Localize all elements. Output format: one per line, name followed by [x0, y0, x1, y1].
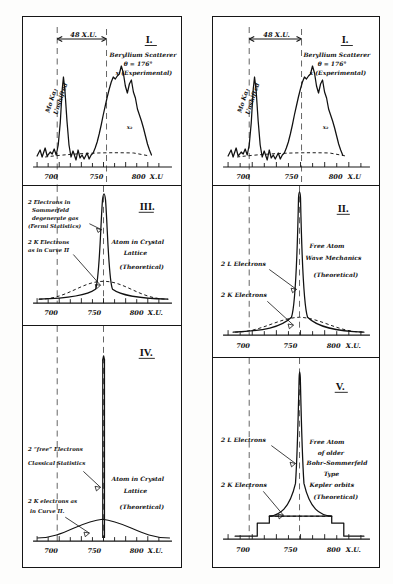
panel-title-line-2: θ = 176° [124, 60, 153, 67]
x-axis-ticks [37, 536, 159, 541]
modified-peak-label: x₂ [126, 124, 133, 130]
free-electrons-leader [83, 471, 100, 487]
x-tick-label-750: 750 [284, 173, 298, 181]
panel-V: V. 2 L Electrons Free Atom of older Bohr… [213, 357, 379, 565]
x-tick-label-700: 700 [236, 173, 250, 181]
k-electrons-label-2: as in Curve II [28, 247, 69, 253]
figure-column-right: 48 X.U. I. Beryllium Scatterer θ = 176° … [212, 16, 380, 568]
l-electrons-leader [269, 270, 296, 290]
valence-electrons-label-3: degenerate gas [32, 215, 78, 222]
l-electrons-label: 2 L Electrons [220, 436, 266, 443]
panel-title-line-3: Bohr–Sommerfeld [306, 460, 369, 468]
l-electrons-leader [271, 446, 295, 464]
panel-numeral: V. [336, 381, 345, 392]
x-tick-label-750: 750 [89, 173, 103, 181]
x-axis-unit: X.U. [345, 546, 361, 554]
k-electrons-leader [267, 301, 293, 325]
x-axis-ticks [37, 162, 159, 167]
panel-title-line-2: θ = 176° [318, 60, 347, 67]
panel-title-line-2: Wave Mechanics [306, 254, 362, 261]
panel-numeral: IV. [140, 347, 153, 358]
modified-peak-label: x₂ [322, 124, 329, 130]
x-tick-label-800: 800 [327, 342, 341, 350]
background-baseline [237, 153, 346, 157]
panel-numeral: II. [338, 203, 349, 214]
panel-title-line-3: x (Experimental) [309, 69, 367, 77]
panel-title-line-2: Lattice [123, 487, 148, 494]
panel-title-line-5: Kepler orbits [309, 481, 355, 489]
panel-title-line-6: (Theoretical) [314, 493, 359, 500]
x-tick-label-700: 700 [44, 309, 58, 317]
k-electrons-label-1: 2 K electrons as [27, 498, 77, 504]
valence-electrons-label-1: 2 Electrons in [27, 199, 70, 205]
panel-I-left: 48 X.U. I. Beryllium Scatterer θ = 176° … [23, 17, 181, 185]
x-axis-unit: X.U. [147, 547, 163, 555]
x-tick-label-750: 750 [87, 309, 101, 317]
panel-title-line-1: Free Atom [309, 242, 345, 249]
panel-numeral: III. [140, 201, 155, 212]
shift-span-label: 48 X.U. [70, 31, 96, 39]
x-tick-label-800: 800 [327, 546, 341, 554]
k-electrons-label-2: in Curve II. [30, 508, 65, 514]
figure-column-left: 48 X.U. I. Beryllium Scatterer θ = 176° … [22, 16, 182, 568]
l-electrons-label: 2 L Electrons [220, 260, 266, 267]
panel-numeral: I. [342, 34, 349, 45]
x-tick-label-750: 750 [87, 547, 101, 555]
x-tick-label-700: 700 [236, 342, 250, 350]
k-electrons-label: 2 K Electrons [220, 481, 267, 488]
x-tick-label-700: 700 [44, 547, 58, 555]
x-axis-unit: X.U [149, 173, 164, 181]
valence-electrons-label-4: (Fermi Statistics) [28, 223, 81, 229]
free-electrons-label-2: Classical Statistics [28, 460, 85, 466]
panel-III: III. Atom in Crystal Lattice (Theoretica… [23, 185, 181, 325]
background-baseline [45, 153, 150, 157]
shift-span-label: 48 X.U. [263, 31, 289, 39]
panel-title-line-3: (Theoretical) [120, 263, 165, 270]
x-tick-label-700: 700 [44, 173, 58, 181]
panel-title-line-3: (Theoretical) [120, 503, 165, 510]
panel-title-line-4: Type [324, 470, 340, 478]
panel-title-line-1: Beryllium Scatterer [303, 51, 372, 59]
x-axis-unit: X.U [347, 173, 362, 181]
panel-title-line-2: of older [318, 449, 345, 457]
panel-title-line-1: Beryllium Scatterer [109, 51, 178, 59]
free-electron-delta-spike [103, 360, 105, 538]
valence-electrons-label-2: Sommerfeld [32, 207, 69, 214]
x-tick-label-800: 800 [329, 173, 343, 181]
x-tick-label-800: 800 [130, 547, 144, 555]
x-tick-label-750: 750 [283, 546, 297, 554]
x-axis-ticks [228, 162, 361, 167]
x-tick-label-800: 800 [130, 309, 144, 317]
x-tick-label-700: 700 [236, 546, 250, 554]
x-axis-unit: X.U. [345, 342, 361, 350]
panel-title-line-3: (Theoretical) [314, 272, 359, 279]
x-axis-unit: X.U. [147, 309, 163, 317]
panel-I-right: 48 X.U. I. Beryllium Scatterer θ = 176° … [213, 17, 379, 185]
k-electrons-label-1: 2 K Electrons [27, 239, 69, 245]
k-electrons-label: 2 K Electrons [220, 291, 267, 298]
figure-sheet: 48 X.U. I. Beryllium Scatterer θ = 176° … [0, 0, 393, 584]
x-tick-label-800: 800 [132, 173, 146, 181]
x-tick-label-750: 750 [283, 342, 297, 350]
panel-title-line-1: Free Atom [309, 438, 345, 445]
k-electrons-leader [73, 255, 100, 286]
free-electrons-label-1: 2 “free” Electrons [27, 447, 83, 454]
panel-numeral: I. [146, 34, 153, 45]
panel-title-line-1: Atom in Crystal [111, 475, 165, 483]
panel-IV: IV. 2 “free” Electrons Classical Statist… [23, 325, 181, 565]
panel-II: II. Free Atom Wave Mechanics (Theoretica… [213, 185, 379, 357]
panel-title-line-1: Atom in Crystal [111, 238, 165, 246]
panel-title-line-2: Lattice [123, 249, 148, 256]
